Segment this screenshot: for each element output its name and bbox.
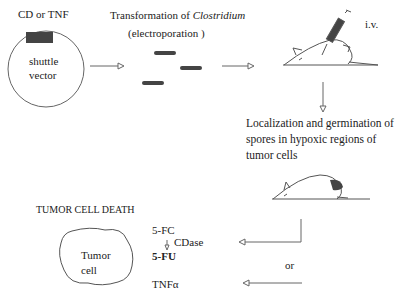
localization-line2: spores in hypoxic regions of [246, 133, 376, 146]
alternative-label: or [285, 259, 294, 272]
arrow-right-icon [222, 63, 254, 69]
injection-route: i.v. [365, 18, 378, 31]
drug-label: 5-FU [152, 250, 176, 263]
arrow-right-icon [90, 63, 124, 69]
outcome-title: TUMOR CELL DEATH [36, 203, 135, 216]
tumor-mass-icon [330, 180, 343, 191]
mouse-tumor-icon [272, 175, 370, 199]
arrow-down-icon [320, 82, 326, 112]
arrow-left-icon [243, 280, 302, 286]
bacterium-icon [154, 51, 176, 55]
insert-gene-block [26, 32, 53, 43]
tumor-cell-label-line2: cell [81, 264, 97, 277]
plasmid-label-line1: shuttle [29, 55, 58, 68]
localization-line3: tumor cells [246, 149, 297, 162]
diagram-graphics [0, 0, 405, 299]
transformation-prefix: Transformation of [110, 9, 193, 21]
transformation-method: (electroporation ) [128, 27, 205, 40]
elbow-arrow-icon [239, 219, 301, 245]
enzyme-label: CDase [174, 236, 203, 249]
organism-name: Clostridium [193, 9, 246, 21]
plasmid-label-line2: vector [29, 69, 56, 82]
tumor-cell-label-line1: Tumor [81, 249, 111, 262]
mouse-injection-icon [283, 10, 378, 65]
prodrug-label: 5-FC [152, 224, 175, 237]
transformation-title: Transformation of Clostridium [110, 9, 245, 22]
bacterium-icon [142, 81, 164, 85]
insert-label: CD or TNF [18, 8, 69, 21]
arrow-down-small-icon [165, 240, 169, 250]
bacterium-icon [180, 66, 202, 70]
localization-line1: Localization and germination of [246, 117, 394, 130]
cytokine-label: TNFα [152, 278, 179, 291]
